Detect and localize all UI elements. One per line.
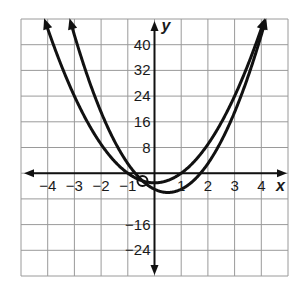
y-tick-label: 40 bbox=[134, 36, 151, 53]
parabola-graph: −4−3−2−11234403224168−16−24xy bbox=[0, 0, 306, 285]
x-tick-label: −4 bbox=[39, 177, 56, 194]
y-tick-label: −16 bbox=[125, 216, 150, 233]
tick-labels: −4−3−2−11234403224168−16−24xy bbox=[39, 17, 286, 258]
x-tick-label: −3 bbox=[66, 177, 83, 194]
y-tick-label: 24 bbox=[134, 87, 151, 104]
curve-arrow-icon bbox=[68, 18, 77, 30]
y-tick-label: 8 bbox=[142, 139, 150, 156]
x-tick-label: 1 bbox=[177, 177, 185, 194]
x-tick-label: −1 bbox=[119, 177, 136, 194]
x-tick-label: −2 bbox=[93, 177, 110, 194]
y-tick-label: −24 bbox=[125, 241, 150, 258]
x-axis-label: x bbox=[275, 177, 286, 194]
x-axis-right-arrow-icon bbox=[277, 169, 287, 177]
y-tick-label: 16 bbox=[134, 113, 151, 130]
y-tick-label: 32 bbox=[134, 61, 151, 78]
y-axis-up-arrow-icon bbox=[151, 21, 159, 31]
y-axis-label: y bbox=[161, 17, 172, 34]
parabola-2 bbox=[71, 24, 264, 192]
y-axis-down-arrow-icon bbox=[151, 265, 159, 275]
x-axis-left-arrow-icon bbox=[24, 169, 34, 177]
x-tick-label: 4 bbox=[257, 177, 265, 194]
x-tick-label: 2 bbox=[204, 177, 212, 194]
x-tick-label: 3 bbox=[230, 177, 238, 194]
